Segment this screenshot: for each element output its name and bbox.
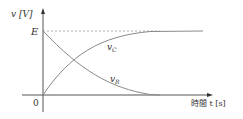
vc-curve xyxy=(43,31,203,95)
x-axis-arrow-icon xyxy=(207,93,213,97)
vc-label: vC xyxy=(107,42,117,53)
vr-label: vR xyxy=(110,74,120,85)
y-axis-arrow-icon xyxy=(41,8,45,14)
rc-voltage-diagram: v [V] E 0 時間 t [s] vC vR xyxy=(0,0,243,119)
origin-label: 0 xyxy=(33,98,39,108)
e-level-label: E xyxy=(30,26,39,37)
vr-curve xyxy=(43,31,160,95)
y-axis-label: v [V] xyxy=(11,9,33,19)
x-axis-label: 時間 t [s] xyxy=(191,99,226,108)
